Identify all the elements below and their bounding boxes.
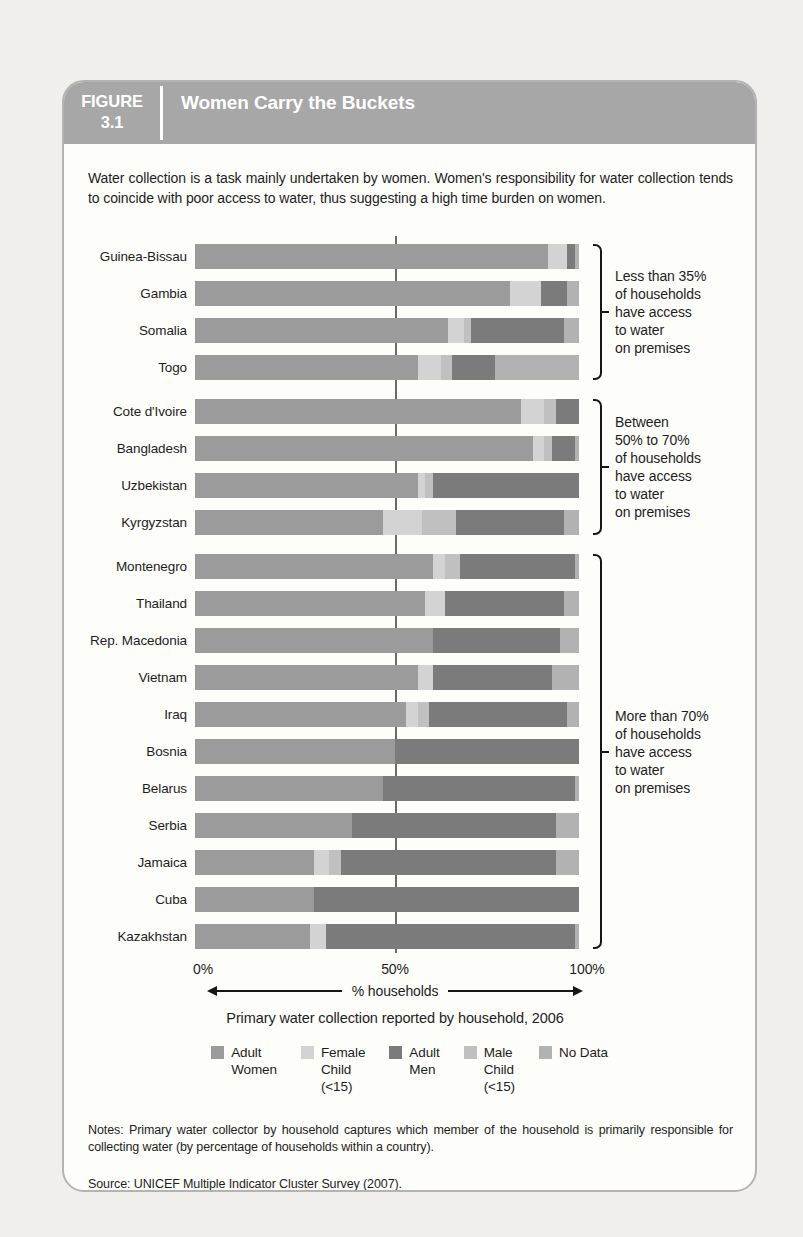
legend-item: AdultMen xyxy=(389,1044,439,1095)
country-label: Bangladesh xyxy=(64,441,195,456)
segment-female-child xyxy=(521,399,544,424)
tick-0: 0% xyxy=(193,961,213,977)
legend-item: AdultWomen xyxy=(211,1044,277,1095)
segment-adult-women xyxy=(195,399,521,424)
segment-no-data xyxy=(560,628,579,653)
segment-male-child xyxy=(464,318,472,343)
group-annotation: Less than 35%of householdshave accessto … xyxy=(593,244,706,380)
segment-adult-women xyxy=(195,473,418,498)
legend-swatch-male-child xyxy=(464,1046,477,1059)
figure-description: Water collection is a task mainly undert… xyxy=(88,168,733,208)
stacked-bar xyxy=(195,510,579,535)
segment-adult-women xyxy=(195,924,310,949)
country-label: Guinea-Bissau xyxy=(64,249,195,264)
segment-adult-women xyxy=(195,813,352,838)
segment-male-child xyxy=(544,436,552,461)
segment-female-child xyxy=(314,850,329,875)
legend-swatch-adult-women xyxy=(211,1046,224,1059)
segment-adult-women xyxy=(195,665,418,690)
segment-adult-women xyxy=(195,739,395,764)
figure-title: Women Carry the Buckets xyxy=(163,82,415,144)
legend: AdultWomenFemaleChild(<15)AdultMenMaleCh… xyxy=(74,1044,745,1095)
segment-no-data xyxy=(556,850,579,875)
segment-adult-women xyxy=(195,318,448,343)
segment-female-child xyxy=(433,554,445,579)
stacked-bar xyxy=(195,591,579,616)
segment-male-child xyxy=(329,850,341,875)
segment-no-data xyxy=(575,554,579,579)
group-bracket xyxy=(593,244,602,380)
country-label: Thailand xyxy=(64,596,195,611)
segment-adult-women xyxy=(195,554,433,579)
segment-female-child xyxy=(418,473,426,498)
segment-no-data xyxy=(556,813,579,838)
legend-label: MaleChild(<15) xyxy=(484,1044,515,1095)
legend-label: FemaleChild(<15) xyxy=(321,1044,365,1095)
x-axis-arrow: % households xyxy=(207,983,583,999)
stacked-bar xyxy=(195,702,579,727)
segment-adult-women xyxy=(195,510,383,535)
country-label: Cote d'Ivoire xyxy=(64,404,195,419)
figure-label: FIGURE xyxy=(64,91,160,112)
arrow-right-icon xyxy=(573,986,583,996)
segment-adult-men xyxy=(556,399,579,424)
legend-item: No Data xyxy=(539,1044,608,1095)
segment-no-data xyxy=(575,924,579,949)
bar-group: MontenegroThailandRep. MacedoniaVietnamI… xyxy=(64,554,755,949)
stacked-bar xyxy=(195,554,579,579)
country-label: Vietnam xyxy=(64,670,195,685)
segment-adult-women xyxy=(195,887,314,912)
segment-adult-men xyxy=(456,510,564,535)
country-label: Kazakhstan xyxy=(64,929,195,944)
country-label: Belarus xyxy=(64,781,195,796)
stacked-bar xyxy=(195,850,579,875)
segment-adult-women xyxy=(195,244,548,269)
segment-female-child xyxy=(548,244,567,269)
segment-adult-men xyxy=(314,887,579,912)
segment-adult-men xyxy=(433,628,560,653)
country-label: Gambia xyxy=(64,286,195,301)
stacked-bar xyxy=(195,924,579,949)
x-axis-ticks: 0% 50% 100% xyxy=(64,961,755,979)
country-label: Serbia xyxy=(64,818,195,833)
country-label: Rep. Macedonia xyxy=(64,633,195,648)
segment-adult-men xyxy=(452,355,494,380)
stacked-bar xyxy=(195,281,579,306)
segment-adult-men xyxy=(383,776,575,801)
segment-adult-men xyxy=(552,436,575,461)
stacked-bar xyxy=(195,244,579,269)
segment-adult-men xyxy=(460,554,575,579)
segment-adult-men xyxy=(352,813,556,838)
legend-item: MaleChild(<15) xyxy=(464,1044,515,1095)
segment-adult-women xyxy=(195,281,510,306)
legend-label: AdultMen xyxy=(409,1044,439,1078)
legend-item: FemaleChild(<15) xyxy=(301,1044,365,1095)
segment-male-child xyxy=(544,399,556,424)
country-label: Jamaica xyxy=(64,855,195,870)
stacked-bar xyxy=(195,887,579,912)
segment-adult-men xyxy=(326,924,576,949)
source-text: Source: UNICEF Multiple Indicator Cluste… xyxy=(88,1176,733,1192)
segment-male-child xyxy=(441,355,453,380)
stacked-bar xyxy=(195,473,579,498)
legend-swatch-adult-men xyxy=(389,1046,402,1059)
segment-female-child xyxy=(418,665,433,690)
stacked-bar xyxy=(195,355,579,380)
group-annotation: More than 70%of householdshave accessto … xyxy=(593,554,709,949)
segment-adult-men xyxy=(471,318,563,343)
country-label: Kyrgyzstan xyxy=(64,515,195,530)
x-axis-label: % households xyxy=(342,983,449,999)
country-label: Bosnia xyxy=(64,744,195,759)
figure-number: 3.1 xyxy=(64,112,160,133)
legend-label: No Data xyxy=(559,1044,608,1061)
segment-adult-men xyxy=(445,591,564,616)
figure-header-band: FIGURE 3.1 Women Carry the Buckets xyxy=(64,82,755,144)
country-label: Montenegro xyxy=(64,559,195,574)
group-annotation-text: More than 70%of householdshave accessto … xyxy=(615,707,709,797)
segment-no-data xyxy=(552,665,579,690)
stacked-bar xyxy=(195,739,579,764)
segment-female-child xyxy=(310,924,325,949)
segment-adult-women xyxy=(195,702,406,727)
segment-adult-men xyxy=(429,702,567,727)
segment-male-child xyxy=(445,554,460,579)
